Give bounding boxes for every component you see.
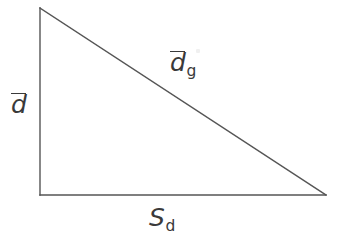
triangle-figure: d d g Sd [0,0,339,244]
label-hypotenuse: d g [170,50,196,75]
label-hypotenuse-subscript: g [186,62,196,80]
label-horizontal-leg-subscript: d [165,217,175,235]
hypotenuse-line [40,8,326,195]
label-vertical-leg-base: d [11,92,27,117]
overbar-hypotenuse [170,51,185,52]
label-horizontal-leg-base: S [149,205,165,230]
overbar-vertical-leg [11,93,26,94]
scan-artifact-speck [196,49,200,53]
label-hypotenuse-base: d [170,50,186,75]
label-vertical-leg: d [11,92,27,117]
label-hypotenuse-letter: d [170,48,186,77]
label-horizontal-leg: Sd [149,205,175,230]
